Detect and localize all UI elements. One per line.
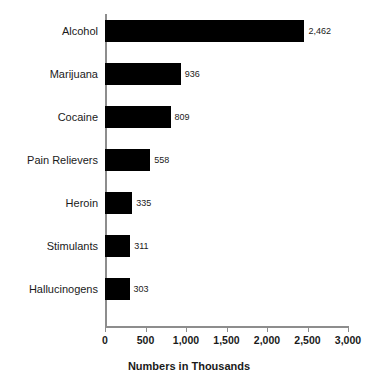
bar-row: 936 bbox=[105, 63, 348, 85]
tick-label: 0 bbox=[102, 334, 108, 346]
bar bbox=[105, 192, 132, 214]
tick-label: 500 bbox=[137, 334, 155, 346]
bar-row: 2,462 bbox=[105, 20, 348, 42]
plot-area: 2,462936809558335311303 bbox=[105, 14, 348, 326]
category-label: Hallucinogens bbox=[29, 278, 98, 300]
bar-value-label: 303 bbox=[130, 285, 149, 294]
tick-mark bbox=[267, 326, 268, 332]
tick-mark bbox=[348, 326, 349, 332]
bar bbox=[105, 20, 304, 42]
tick-mark bbox=[105, 326, 106, 332]
tick-label: 3,000 bbox=[335, 334, 361, 346]
bar bbox=[105, 235, 130, 257]
tick-mark bbox=[186, 326, 187, 332]
bar-value-label: 558 bbox=[150, 156, 169, 165]
bar bbox=[105, 149, 150, 171]
category-label: Cocaine bbox=[58, 106, 98, 128]
category-label: Heroin bbox=[66, 192, 98, 214]
bar-value-label: 936 bbox=[181, 70, 200, 79]
bar-value-label: 311 bbox=[130, 242, 148, 251]
bar bbox=[105, 63, 181, 85]
bar-value-label: 809 bbox=[171, 113, 190, 122]
category-label: Stimulants bbox=[47, 235, 98, 257]
category-label: Marijuana bbox=[50, 63, 98, 85]
bar-value-label: 2,462 bbox=[304, 27, 331, 36]
tick-label: 2,000 bbox=[254, 334, 280, 346]
bar-row: 809 bbox=[105, 106, 348, 128]
tick-mark bbox=[308, 326, 309, 332]
bar-value-label: 335 bbox=[132, 199, 151, 208]
bar-row: 303 bbox=[105, 278, 348, 300]
category-label: Alcohol bbox=[62, 20, 98, 42]
x-axis-title: Numbers in Thousands bbox=[0, 360, 378, 372]
bar-row: 335 bbox=[105, 192, 348, 214]
bar bbox=[105, 278, 130, 300]
tick-mark bbox=[227, 326, 228, 332]
tick-label: 1,500 bbox=[213, 334, 239, 346]
bar-row: 558 bbox=[105, 149, 348, 171]
tick-label: 1,000 bbox=[173, 334, 199, 346]
bar bbox=[105, 106, 171, 128]
category-label: Pain Relievers bbox=[27, 149, 98, 171]
bar-row: 311 bbox=[105, 235, 348, 257]
bar-chart: 2,462936809558335311303 AlcoholMarijuana… bbox=[0, 0, 378, 389]
tick-label: 2,500 bbox=[294, 334, 320, 346]
tick-mark bbox=[146, 326, 147, 332]
